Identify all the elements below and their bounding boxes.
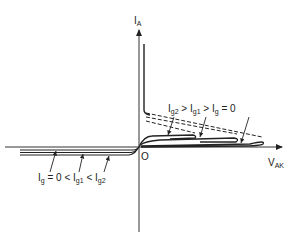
forward-curve-ig0 — [141, 142, 263, 147]
on-state-curve — [144, 44, 150, 115]
dashed-unstable-line-2 — [146, 117, 237, 134]
pointer-arrow-ig2 — [168, 117, 174, 135]
pointer-arrow-ig0 — [241, 117, 249, 143]
x-axis-label: VAK — [268, 158, 284, 169]
pointer-arrow-rev-ig1 — [79, 154, 83, 172]
y-axis-label: IA — [134, 16, 141, 27]
thyristor-characteristic-plot — [0, 0, 302, 245]
pointer-arrow-rev-ig0 — [50, 151, 56, 172]
forward-gate-current-annotation: Ig2 > Ig1 > Ig = 0 — [168, 104, 236, 115]
pointer-arrow-rev-ig2 — [104, 156, 109, 172]
reverse-gate-current-annotation: Ig = 0 < Ig1 < Ig2 — [38, 173, 106, 184]
origin-label: O — [141, 152, 149, 162]
